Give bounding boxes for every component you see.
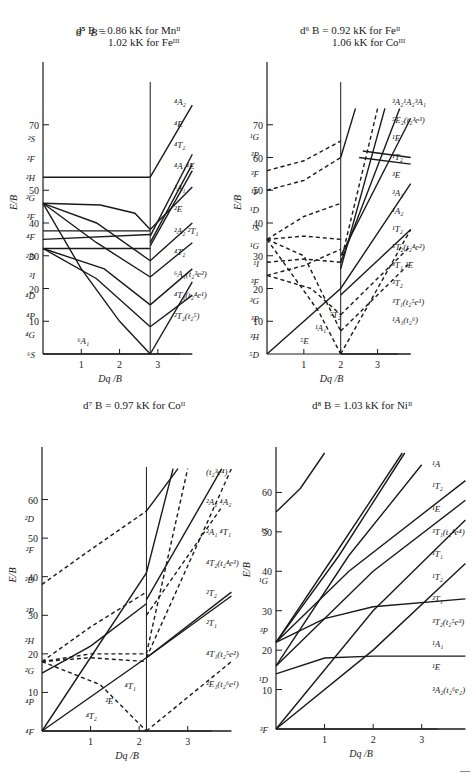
free-ion-term-label: ²F	[27, 212, 36, 222]
chart-title-line2: 1.02 kK for Feᴵᴵᴵ	[108, 36, 179, 48]
y-tick-label: 30	[262, 606, 272, 617]
state-label: ²T₂	[206, 588, 217, 598]
free-ion-term-label: ²F	[27, 154, 36, 164]
y-axis-label: E/B	[232, 195, 243, 211]
state-label: ¹A₂	[392, 206, 403, 216]
panel-d8: d⁸ B = 1.03 kK for Niᴵᴵ123102030405060Dq…	[236, 387, 473, 774]
chart-title: d⁷ B = 0.97 kK for Coᴵᴵ	[83, 399, 185, 411]
x-tick-label: 1	[301, 359, 306, 370]
state-label: ⁴T₂	[174, 140, 185, 150]
series-dashed-right-1	[341, 108, 378, 262]
x-axis-label: Dq /B	[114, 750, 139, 761]
state-label: ¹T₂	[432, 572, 443, 582]
state-label: ²A₂ ²T₁	[174, 226, 198, 236]
d8-diagram: d⁸ B = 1.03 kK for Niᴵᴵ123102030405060Dq…	[236, 387, 473, 774]
y-axis-label: E/B	[7, 568, 18, 584]
free-ion-term-label: ³P	[260, 626, 269, 636]
state-label: ¹E	[392, 133, 401, 143]
state-label: ⁴T₂	[174, 247, 185, 257]
state-label: ³T₁(t₂⁴e⁴)	[432, 527, 465, 537]
x-tick-label: 2	[338, 359, 343, 370]
state-label: ²E	[174, 204, 183, 214]
free-ion-term-label: ³P	[251, 314, 260, 324]
series-1T2-right	[341, 108, 356, 157]
y-axis-label: E/B	[8, 195, 19, 211]
state-label: ²A₂ ⁴A₂	[206, 497, 231, 507]
free-ion-term-label: ⁴P	[25, 697, 34, 707]
series-1T2-steep	[276, 453, 402, 642]
state-label: ³A₂¹A₂³A₁	[392, 97, 426, 107]
series-4P-line	[42, 604, 146, 673]
y-tick-label: 50	[28, 533, 38, 544]
x-axis-label: Dq /B	[97, 373, 122, 384]
state-label: ¹E	[432, 662, 441, 672]
state-label: ¹T₂	[432, 481, 443, 491]
series-dashed-left-5	[267, 236, 341, 239]
series-1F-dashed	[267, 158, 341, 191]
free-ion-term-label: ¹G	[250, 241, 260, 251]
chart-title: d⁶ B = 0.92 kK for Feᴵᴵ	[300, 24, 400, 36]
x-axis-label: Dq /B	[348, 748, 373, 759]
free-ion-term-label: ²I	[29, 271, 36, 281]
state-label: ¹T₂	[392, 224, 403, 234]
state-label: ³T₁ ²E	[392, 260, 414, 270]
state-label: ¹A₁(t₂⁶)	[392, 315, 418, 325]
x-tick-label: 1	[322, 734, 327, 745]
chart-title-line2: 1.06 kK for Coᴵᴵᴵ	[332, 36, 405, 48]
state-label: ¹A	[432, 459, 441, 469]
state-label: ²E₁(t₂⁶e¹)	[206, 679, 239, 689]
state-label: ⁴T₁(t₂⁵e²)	[206, 649, 239, 659]
y-tick-label: 10	[262, 685, 272, 696]
interior-state-label: ⁶A₁	[77, 336, 89, 346]
x-tick-label: 3	[185, 736, 190, 747]
free-ion-term-label: ¹I	[253, 259, 260, 269]
interior-state-label: ⁴T₂	[86, 711, 97, 721]
d7-diagram: d⁷ B = 0.97 kK for Coᴵᴵ123102030405060Dq…	[0, 387, 236, 774]
state-label: ⁵E₂(t₂³e³)	[392, 115, 425, 125]
state-label: ⁴T₂(t₂⁴e³)	[206, 558, 239, 568]
series-2A1-right	[150, 187, 192, 230]
d6-diagram: d⁶ B = 0.92 kK for Feᴵᴵ1.06 kK for Coᴵᴵᴵ…	[236, 0, 473, 387]
free-ion-term-label: ²F	[26, 545, 35, 555]
series-4T1-left	[43, 249, 150, 327]
free-ion-term-label: ²P	[26, 606, 35, 616]
free-ion-term-label: ⁴G	[25, 330, 35, 340]
series-dashed-left-4	[267, 259, 341, 262]
chart-title: d⁵ B = 0.86 kK for Mnᴵᴵ	[76, 24, 181, 36]
page-corner-mark	[460, 771, 470, 772]
free-ion-term-label: ⁴P	[26, 311, 35, 321]
panel-d7: d⁷ B = 0.97 kK for Coᴵᴵ123102030405060Dq…	[0, 387, 236, 774]
state-label: ¹A₁	[432, 639, 443, 649]
state-label: ¹T₂	[392, 152, 403, 162]
y-tick-label: 60	[262, 487, 272, 498]
free-ion-term-label: ²G	[25, 666, 35, 676]
state-label: ³T₂	[392, 278, 403, 288]
series-4P-curve	[43, 235, 150, 240]
series-4T1-t25e2	[146, 662, 231, 731]
free-ion-term-label: ³F	[251, 169, 260, 179]
free-ion-term-label: ¹G	[250, 132, 260, 142]
state-label: ²T₁	[206, 618, 217, 628]
y-tick-label: 70	[253, 120, 263, 131]
free-ion-term-label: ⁴D	[25, 291, 35, 301]
x-axis-label: Dq /B	[319, 373, 344, 384]
panel-d5: d5 B = d⁵ B = 0.86 kK for Mnᴵᴵ1.02 kK fo…	[0, 0, 236, 387]
state-label: ²T₂(t₂⁵)	[174, 311, 200, 321]
state-label: ⁶A₁(t₂³e²)	[174, 269, 207, 279]
state-label: ³T₁	[432, 594, 443, 604]
state-label: ⁴A₂	[174, 97, 186, 107]
series-1A2-crossing	[359, 158, 411, 165]
free-ion-term-label: ¹F	[251, 187, 260, 197]
panel-d6: d⁶ B = 0.92 kK for Feᴵᴵ1.06 kK for Coᴵᴵᴵ…	[236, 0, 473, 387]
y-axis-label: E/B	[241, 562, 252, 578]
state-label: ¹T₁	[432, 549, 443, 559]
free-ion-term-label: ¹D	[250, 205, 260, 215]
x-tick-label: 2	[371, 734, 376, 745]
series-3P-dashed	[267, 141, 341, 171]
x-tick-label: 2	[137, 736, 142, 747]
y-tick-label: 60	[28, 495, 38, 506]
x-tick-label: 3	[419, 734, 424, 745]
series-3A2-1A2-crossing	[363, 151, 411, 158]
series-2I-flat	[43, 203, 150, 229]
state-label: ²A₁ ⁴T₁	[206, 527, 231, 537]
